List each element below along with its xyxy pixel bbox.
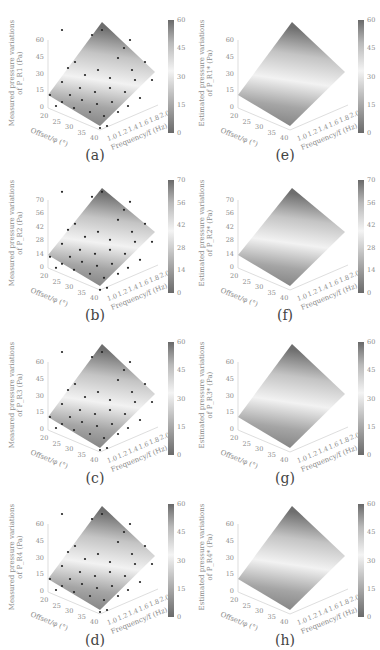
x-tick-label: 25 <box>243 118 251 126</box>
surface-plot <box>48 506 155 610</box>
colorbar-tick-label: 45 <box>177 366 185 374</box>
colorbar-tick-label: 60 <box>177 338 185 346</box>
surface-plot <box>48 188 155 286</box>
z-tick-label: 14 <box>226 250 234 258</box>
z-tick-label: 30 <box>36 554 44 562</box>
x-tick-label: 30 <box>255 283 263 291</box>
z-axis-label-line2: of P_R3 (Pa) <box>16 340 24 450</box>
x-tick-label: 30 <box>65 283 73 291</box>
z-tick-label: 30 <box>226 70 234 78</box>
colorbar <box>168 504 174 617</box>
x-tick-label: 40 <box>280 618 288 626</box>
x-tick-label: 35 <box>78 289 86 297</box>
subplot-a: 01530456020253035401.01.21.41.61.82.0Off… <box>0 0 190 160</box>
z-tick-label: 60 <box>226 358 234 366</box>
z-tick-label: 45 <box>36 537 44 545</box>
x-axis-label: Offset/φ (°) <box>219 286 259 308</box>
colorbar-tick-label: 0 <box>177 451 181 459</box>
x-tick-label: 40 <box>90 618 98 626</box>
x-tick-label: 30 <box>255 123 263 131</box>
z-tick-label: 30 <box>226 554 234 562</box>
z-axis-label-line2: of P_R3* (Pa) <box>206 340 214 450</box>
colorbar <box>168 342 174 455</box>
z-tick-label: 60 <box>226 36 234 44</box>
z-axis-label-line1: Measured pressure variations <box>8 502 16 612</box>
subplot-caption: (h) <box>190 632 380 648</box>
surface-plot <box>48 344 155 448</box>
z-tick-label: 0 <box>230 587 234 595</box>
x-tick-label: 40 <box>90 134 98 142</box>
colorbar-tick-label: 30 <box>177 73 185 81</box>
z-axis-label: Estimated pressure variationsof P_R4* (P… <box>198 502 214 612</box>
surface-plot <box>238 188 345 286</box>
z-axis-label-line1: Measured pressure variations <box>8 18 16 128</box>
z-axis-label-line1: Estimated pressure variations <box>198 340 206 450</box>
z-axis-label-line1: Measured pressure variations <box>8 340 16 450</box>
colorbar-tick-label: 56 <box>367 199 375 207</box>
colorbar-tick-label: 30 <box>367 395 375 403</box>
x-tick-label: 20 <box>40 272 48 280</box>
colorbar-tick-label: 45 <box>177 44 185 52</box>
subplot-c: 01530456020253035401.01.21.41.61.82.0Off… <box>0 322 190 482</box>
colorbar-tick-label: 28 <box>367 244 375 252</box>
colorbar-tick-label: 30 <box>367 557 375 565</box>
x-tick-label: 25 <box>243 602 251 610</box>
z-tick-label: 0 <box>40 425 44 433</box>
z-tick-label: 14 <box>36 250 44 258</box>
z-tick-label: 0 <box>230 425 234 433</box>
z-tick-label: 15 <box>36 570 44 578</box>
z-tick-label: 15 <box>36 86 44 94</box>
x-axis-label: Offset/φ (°) <box>219 610 259 632</box>
z-axis-label-line1: Measured pressure variations <box>8 178 16 288</box>
colorbar-tick-label: 60 <box>367 16 375 24</box>
x-tick-label: 25 <box>53 602 61 610</box>
z-axis-label-line2: of P_R2 (Pa) <box>16 178 24 288</box>
colorbar-tick-label: 14 <box>367 266 375 274</box>
z-tick-label: 60 <box>36 36 44 44</box>
z-tick-label: 28 <box>226 236 234 244</box>
colorbar-tick-label: 70 <box>177 176 185 184</box>
colorbar-tick-label: 28 <box>177 244 185 252</box>
z-tick-label: 45 <box>36 53 44 61</box>
surface-plot <box>238 506 345 610</box>
colorbar-tick-label: 15 <box>367 101 375 109</box>
z-tick-label: 15 <box>226 570 234 578</box>
z-tick-label: 45 <box>36 375 44 383</box>
colorbar-tick-label: 15 <box>367 423 375 431</box>
x-tick-label: 25 <box>53 118 61 126</box>
colorbar <box>168 180 174 293</box>
x-tick-label: 35 <box>268 289 276 297</box>
x-tick-label: 30 <box>65 445 73 453</box>
colorbar-tick-label: 15 <box>177 423 185 431</box>
x-tick-label: 30 <box>255 445 263 453</box>
x-tick-label: 20 <box>230 272 238 280</box>
z-tick-label: 15 <box>226 408 234 416</box>
colorbar-tick-label: 45 <box>367 366 375 374</box>
subplot-e: 01530456020253035401.01.21.41.61.82.0Off… <box>190 0 380 160</box>
z-axis-label-line2: of P_R1 (Pa) <box>16 18 24 128</box>
x-tick-label: 20 <box>230 434 238 442</box>
z-axis-label-line2: of P_R2* (Pa) <box>206 178 214 288</box>
colorbar-tick-label: 30 <box>367 73 375 81</box>
colorbar-tick-label: 42 <box>367 221 375 229</box>
colorbar-tick-label: 0 <box>367 613 371 621</box>
colorbar-tick-label: 45 <box>367 528 375 536</box>
z-axis-label: Estimated pressure variationsof P_R1* (P… <box>198 18 214 128</box>
z-axis-label: Estimated pressure variationsof P_R3* (P… <box>198 340 214 450</box>
z-tick-label: 42 <box>226 223 234 231</box>
x-tick-label: 40 <box>280 294 288 302</box>
colorbar-tick-label: 0 <box>367 451 371 459</box>
z-tick-label: 0 <box>40 263 44 271</box>
x-tick-label: 40 <box>280 134 288 142</box>
x-tick-label: 35 <box>268 613 276 621</box>
z-axis-label-line1: Estimated pressure variations <box>198 18 206 128</box>
z-tick-label: 60 <box>36 358 44 366</box>
z-tick-label: 56 <box>36 209 44 217</box>
z-tick-label: 60 <box>226 520 234 528</box>
subplot-f: 0142842567020253035401.01.21.41.61.82.0O… <box>190 160 380 320</box>
x-axis-label: Offset/φ (°) <box>29 126 69 148</box>
subplot-b: 0142842567020253035401.01.21.41.61.82.0O… <box>0 160 190 320</box>
colorbar <box>358 20 364 133</box>
z-tick-label: 45 <box>226 53 234 61</box>
surface-plot <box>238 22 345 126</box>
